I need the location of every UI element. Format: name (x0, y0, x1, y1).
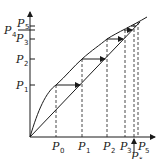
svg-text:4: 4 (12, 31, 17, 39)
svg-text:P: P (3, 24, 12, 37)
svg-text:P: P (102, 140, 111, 153)
svg-text:3: 3 (24, 39, 28, 47)
x-label-p5: P 5 (137, 140, 149, 155)
svg-text:1: 1 (24, 86, 28, 94)
svg-text:1: 1 (86, 147, 90, 155)
svg-text:P: P (15, 53, 24, 66)
x-label-p3: P 3 (119, 140, 131, 155)
diagonal-line (30, 22, 140, 137)
svg-text:P: P (77, 140, 86, 153)
y-label-p2: P 2 (15, 53, 28, 68)
x-label-p1: P 1 (77, 140, 90, 155)
y-label-p3: P 3 (15, 32, 28, 47)
svg-text:*: * (139, 156, 143, 159)
y-label-p1: P 1 (15, 79, 28, 94)
y-label-p5: P 5 (16, 17, 29, 31)
svg-text:2: 2 (111, 147, 115, 155)
svg-text:P: P (15, 79, 24, 92)
cobweb-diagram: P 1 P 2 P 3 P 4 P 5 P 0 P 1 P 2 P 3 P 5 … (0, 0, 157, 159)
x-label-p0: P 0 (51, 140, 64, 155)
cobweb-steps (56, 26, 136, 85)
svg-text:P: P (16, 17, 25, 30)
y-label-p4: P 4 (3, 24, 17, 39)
svg-text:5: 5 (25, 23, 29, 31)
svg-text:5: 5 (145, 147, 149, 155)
svg-text:P: P (130, 150, 139, 159)
svg-text:2: 2 (24, 60, 28, 68)
svg-text:0: 0 (60, 147, 64, 155)
dashed-projections (56, 22, 138, 137)
svg-text:P: P (51, 140, 60, 153)
x-label-p2: P 2 (102, 140, 115, 155)
